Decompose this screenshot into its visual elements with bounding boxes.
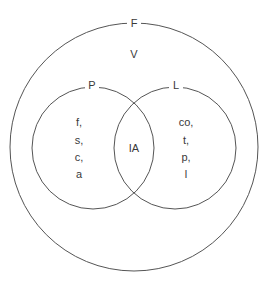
- left-item: f,: [76, 116, 82, 128]
- label-v: V: [130, 48, 138, 60]
- label-p: P: [88, 79, 95, 91]
- left-item: s,: [75, 134, 84, 146]
- right-item: co,: [179, 116, 194, 128]
- right-item: p,: [181, 151, 190, 163]
- venn-diagram: F V P L f, s, c, a IA co, t, p, l: [0, 0, 268, 289]
- label-l: L: [173, 79, 179, 91]
- right-item: l: [185, 168, 187, 180]
- intersection-label: IA: [129, 142, 140, 154]
- label-f: F: [131, 17, 138, 29]
- left-item: c,: [75, 151, 84, 163]
- right-item: t,: [183, 134, 189, 146]
- left-item: a: [76, 168, 83, 180]
